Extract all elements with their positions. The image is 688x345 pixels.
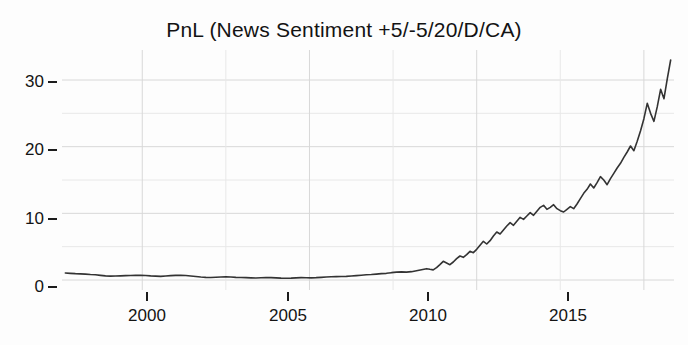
chart-title: PnL (News Sentiment +5/-5/20/D/CA) — [0, 18, 688, 42]
plot-area — [62, 50, 674, 290]
x-tick-mark-2000 — [146, 292, 148, 301]
x-tick-mark-2010 — [427, 292, 429, 301]
y-tick-label-30: 30 — [25, 72, 44, 92]
plot-svg — [62, 50, 674, 290]
grid-minor-horizontal — [62, 113, 674, 246]
y-tick-label-0: 0 — [35, 277, 44, 297]
y-tick-label-10: 10 — [25, 209, 44, 229]
x-tick-mark-2015 — [567, 292, 569, 301]
x-tick-label-2015: 2015 — [549, 306, 587, 326]
grid-minor-vertical — [62, 50, 560, 290]
y-axis-tick-labels: 30 20 10 0 — [0, 0, 44, 345]
y-tick-label-20: 20 — [25, 140, 44, 160]
x-tick-label-2005: 2005 — [269, 306, 307, 326]
y-tick-mark-30 — [48, 81, 57, 83]
x-tick-mark-2005 — [287, 292, 289, 301]
y-tick-mark-20 — [48, 149, 57, 151]
x-axis-tick-labels: 2000 2005 2010 2015 — [0, 306, 688, 336]
x-tick-label-2010: 2010 — [409, 306, 447, 326]
y-tick-mark-10 — [48, 218, 57, 220]
chart-figure: PnL (News Sentiment +5/-5/20/D/CA) 30 20… — [0, 0, 688, 345]
series-line-pnl — [65, 60, 670, 278]
x-tick-label-2000: 2000 — [128, 306, 166, 326]
y-tick-mark-0 — [48, 286, 57, 288]
